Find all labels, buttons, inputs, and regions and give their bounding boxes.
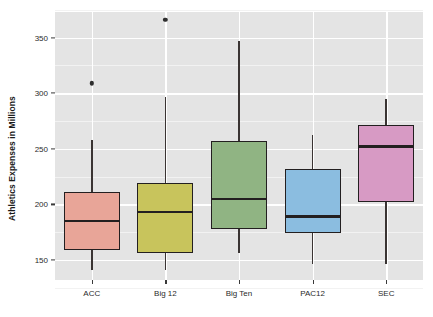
boxplot-median-line <box>137 211 193 213</box>
boxplot-figure: Athletics Expenses in Millions 150200250… <box>0 0 433 317</box>
x-tick-mark <box>313 280 314 284</box>
boxplot-whisker-lower <box>91 250 93 270</box>
boxplot-whisker-lower <box>165 253 167 270</box>
boxplot-outlier-point[interactable] <box>90 81 94 85</box>
y-tick-mark <box>51 204 55 205</box>
boxplot-box-pac12[interactable] <box>285 169 341 233</box>
x-tick-label-sec: SEC <box>351 289 421 298</box>
boxplot-median-line <box>285 215 341 217</box>
y-tick-mark <box>51 93 55 94</box>
x-tick-mark <box>239 280 240 284</box>
boxplot-whisker-upper <box>91 140 93 192</box>
x-tick-mark <box>165 280 166 284</box>
boxplot-whisker-lower <box>385 202 387 264</box>
y-axis-title: Athletics Expenses in Millions <box>0 0 24 317</box>
boxplot-median-line <box>64 220 120 222</box>
x-tick-label-big-ten: Big Ten <box>204 289 274 298</box>
y-tick-label: 300 <box>8 89 48 98</box>
boxplot-box-big-12[interactable] <box>137 183 193 253</box>
boxplot-whisker-upper <box>165 97 167 184</box>
x-tick-label-big-12: Big 12 <box>130 289 200 298</box>
y-tick-label: 250 <box>8 144 48 153</box>
boxplot-whisker-upper <box>385 99 387 126</box>
boxplot-outlier-point[interactable] <box>163 18 167 22</box>
boxplot-box-big-ten[interactable] <box>211 141 267 229</box>
y-tick-mark <box>51 148 55 149</box>
x-tick-mark <box>386 280 387 284</box>
x-tick-mark <box>92 280 93 284</box>
y-tick-mark <box>51 37 55 38</box>
y-tick-mark <box>51 259 55 260</box>
gridline-horizontal-minor <box>55 10 423 11</box>
boxplot-whisker-lower <box>238 229 240 253</box>
x-tick-label-acc: ACC <box>57 289 127 298</box>
boxplot-whisker-upper <box>238 41 240 141</box>
x-tick-label-pac12: PAC12 <box>278 289 348 298</box>
boxplot-whisker-upper <box>312 135 314 168</box>
boxplot-median-line <box>211 198 267 200</box>
y-tick-label: 350 <box>8 33 48 42</box>
y-tick-label: 200 <box>8 200 48 209</box>
boxplot-whisker-lower <box>312 233 314 264</box>
plot-panel <box>55 12 423 280</box>
boxplot-median-line <box>358 145 414 147</box>
y-tick-label: 150 <box>8 255 48 264</box>
boxplot-box-sec[interactable] <box>358 125 414 202</box>
